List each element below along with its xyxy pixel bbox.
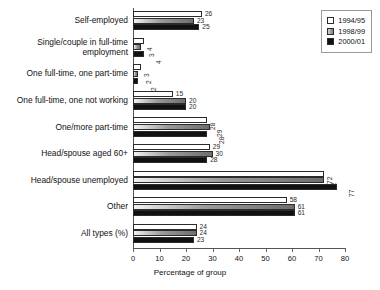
bar <box>133 51 144 57</box>
x-tick-label: 70 <box>314 254 322 263</box>
category-label: One/more part-time <box>0 123 128 133</box>
bar <box>133 91 173 97</box>
bar-value-label: 4 <box>147 47 154 51</box>
bar <box>133 184 337 190</box>
category-label: Other <box>0 202 128 212</box>
bar-value-label: 28 <box>210 157 217 164</box>
x-tick-mark <box>133 249 134 252</box>
bar-group: 322 <box>133 61 345 88</box>
bar <box>133 144 210 150</box>
legend-label-1998-99: 1998/99 <box>338 27 365 36</box>
x-tick-label: 20 <box>182 254 190 263</box>
bar <box>133 237 194 243</box>
x-tick-label: 80 <box>341 254 349 263</box>
bar-value-label: 2 <box>146 80 153 84</box>
category-label: One full-time, one not working <box>0 96 128 106</box>
bar-value-label: 3 <box>149 54 156 58</box>
bar-group: 152020 <box>133 88 345 115</box>
x-tick-mark <box>239 249 240 252</box>
category-label: Single/couple in full-time employment <box>0 38 128 57</box>
x-axis-title: Percentage of group <box>0 268 380 277</box>
x-tick-label: 10 <box>155 254 163 263</box>
bar <box>133 151 213 157</box>
legend-label-1994-95: 1994/95 <box>338 16 365 25</box>
bar <box>133 98 186 104</box>
x-tick-mark <box>266 249 267 252</box>
bar <box>133 131 207 137</box>
bar <box>133 104 186 110</box>
bar-value-label: 61 <box>298 210 305 217</box>
x-tick-mark <box>160 249 161 252</box>
x-tick-label: 50 <box>261 254 269 263</box>
bar <box>133 204 295 210</box>
x-tick-mark <box>319 249 320 252</box>
bar <box>133 18 194 24</box>
bar <box>133 117 207 123</box>
bar-value-label: 58 <box>290 197 297 204</box>
bar-group: 282928 <box>133 114 345 141</box>
category-label: Head/spouse aged 60+ <box>0 149 128 159</box>
legend-swatch-icon-1994-95 <box>327 17 334 24</box>
plot-area: 2623254343221520202829282930287272775861… <box>133 8 345 247</box>
category-label-list: Self-employedSingle/couple in full-time … <box>0 8 128 247</box>
x-tick-mark <box>186 249 187 252</box>
x-tick-mark <box>345 249 346 252</box>
bar-value-label: 3 <box>144 74 151 78</box>
bar-group: 434 <box>133 35 345 62</box>
bar-value-label: 23 <box>197 237 204 244</box>
bar <box>133 24 199 30</box>
legend-label-2000-01: 2000/01 <box>338 37 365 46</box>
legend: 1994/95 1998/99 2000/01 <box>321 10 372 53</box>
bar-group: 586161 <box>133 194 345 221</box>
legend-item-1994-95[interactable]: 1994/95 <box>327 16 365 25</box>
bar <box>133 44 141 50</box>
bar <box>133 71 138 77</box>
legend-swatch-icon-1998-99 <box>327 28 334 35</box>
x-tick-label: 40 <box>235 254 243 263</box>
bar <box>133 230 197 236</box>
bar-value-label: 26 <box>205 11 212 18</box>
category-label: All types (%) <box>0 229 128 239</box>
bar <box>133 157 207 163</box>
x-tick-mark <box>292 249 293 252</box>
bar-group: 242423 <box>133 220 345 247</box>
bar <box>133 124 210 130</box>
bar-value-label: 20 <box>189 104 196 111</box>
bar <box>133 177 324 183</box>
x-tick-label: 60 <box>288 254 296 263</box>
category-label: One full-time, one part-time <box>0 69 128 79</box>
bar <box>133 38 144 44</box>
bar <box>133 78 138 84</box>
bar <box>133 11 202 17</box>
bar <box>133 64 141 70</box>
legend-item-1998-99[interactable]: 1998/99 <box>327 27 365 36</box>
bar <box>133 224 197 230</box>
bar-group: 293028 <box>133 141 345 168</box>
bar <box>133 210 295 216</box>
bar-value-label: 15 <box>176 91 183 98</box>
bar <box>133 197 287 203</box>
x-tick-mark <box>213 249 214 252</box>
bar-chart: Self-employedSingle/couple in full-time … <box>0 0 380 290</box>
category-label: Self-employed <box>0 16 128 26</box>
bar-value-label: 77 <box>349 189 356 196</box>
category-label: Head/spouse unemployed <box>0 176 128 186</box>
bar <box>133 171 324 177</box>
legend-swatch-icon-2000-01 <box>327 38 334 45</box>
legend-item-2000-01[interactable]: 2000/01 <box>327 37 365 46</box>
x-tick-label: 30 <box>208 254 216 263</box>
bar-value-label: 25 <box>202 24 209 31</box>
bar-group: 727277 <box>133 167 345 194</box>
x-tick-label: 0 <box>131 254 135 263</box>
bar-group: 262325 <box>133 8 345 35</box>
